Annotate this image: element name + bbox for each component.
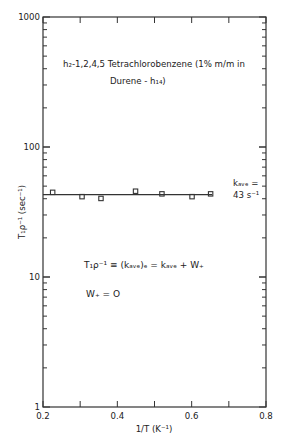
x-tick-label: 0.6 <box>185 411 199 421</box>
equation-1: T₁ρ⁻¹ ≡ (kₐᵥₑ)ₑ = kₐᵥₑ + W₊ <box>83 260 204 270</box>
kave-label-2: 43 s⁻¹ <box>233 190 259 200</box>
kave-label-1: kₐᵥₑ = <box>233 178 258 188</box>
data-point-marker <box>208 192 212 196</box>
title-line-2: Durene - h₁₄) <box>110 76 166 86</box>
data-point-marker <box>99 196 103 200</box>
equation-2: W₊ = O <box>86 289 120 299</box>
x-axis-label: 1/T (K⁻¹) <box>136 424 173 434</box>
title-line-1: h₂-1,2,4,5 Tetrachlorobenzene (1% m/m in <box>63 59 245 69</box>
data-point-marker <box>160 192 164 196</box>
tick-labels: 0.20.40.60.81101001000 <box>18 12 273 421</box>
y-tick-label: 100 <box>24 142 40 152</box>
y-tick-label: 10 <box>29 272 40 282</box>
data-point-marker <box>133 189 137 193</box>
y-tick-label: 1 <box>35 402 40 412</box>
x-tick-label: 0.4 <box>110 411 124 421</box>
y-tick-label: 1000 <box>18 12 40 22</box>
y-axis-label: T₁ρ⁻¹ (sec⁻¹) <box>17 185 27 240</box>
x-tick-label: 0.2 <box>36 411 50 421</box>
chart: 0.20.40.60.81101001000 h₂-1,2,4,5 Tetrac… <box>0 0 284 439</box>
data-series <box>43 189 213 201</box>
data-point-marker <box>50 190 54 194</box>
x-tick-label: 0.8 <box>259 411 273 421</box>
